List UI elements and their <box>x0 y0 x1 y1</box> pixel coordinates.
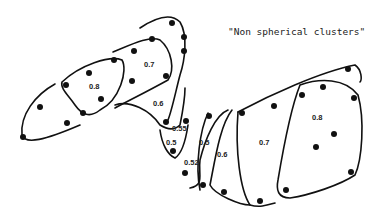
label-right-07: 0.7 <box>259 138 269 147</box>
label-mid-052: 0.52 <box>184 158 199 167</box>
label-left-08: 0.8 <box>89 82 99 91</box>
diagram-title: "Non spherical clusters" <box>228 26 365 37</box>
contour-right-07 <box>237 112 275 206</box>
label-mid-05: 0.5 <box>166 138 176 147</box>
contour-left-07 <box>113 39 172 108</box>
cluster-diagram: "Non spherical clusters" 0.8 0.7 0.6 0.5… <box>0 0 374 223</box>
label-left-07: 0.7 <box>144 60 154 69</box>
label-right-08: 0.8 <box>312 113 322 122</box>
contour-mid-052 <box>190 110 228 188</box>
contour-right-outer <box>238 65 361 112</box>
contour-left-outer <box>22 84 80 140</box>
label-right-05: 0.5 <box>199 138 209 147</box>
label-mid-06: 0.6 <box>153 99 163 108</box>
contour-right-08 <box>277 81 362 198</box>
label-right-06: 0.6 <box>217 150 227 159</box>
label-mid-055: 0.55 <box>172 124 187 133</box>
